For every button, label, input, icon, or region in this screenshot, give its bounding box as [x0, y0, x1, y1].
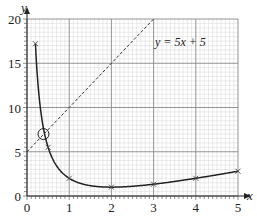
svg-text:0: 0: [24, 200, 31, 215]
svg-text:4: 4: [193, 200, 200, 215]
svg-text:10: 10: [8, 101, 21, 116]
svg-text:5: 5: [235, 200, 242, 215]
y-axis-label: y: [19, 0, 27, 15]
line-equation-label: y = 5x + 5: [154, 35, 206, 49]
x-axis-label: x: [246, 188, 253, 203]
svg-text:3: 3: [150, 200, 157, 215]
svg-text:2: 2: [108, 200, 115, 215]
tick-labels: 01234505101520: [8, 12, 241, 215]
svg-text:5: 5: [15, 145, 22, 160]
svg-text:1: 1: [66, 200, 73, 215]
chart-container: 01234505101520 x y y = 5x + 5: [0, 0, 257, 216]
line-chart: 01234505101520 x y y = 5x + 5: [0, 0, 257, 216]
svg-text:15: 15: [8, 56, 21, 71]
svg-text:0: 0: [15, 189, 22, 204]
svg-text:20: 20: [8, 12, 21, 27]
